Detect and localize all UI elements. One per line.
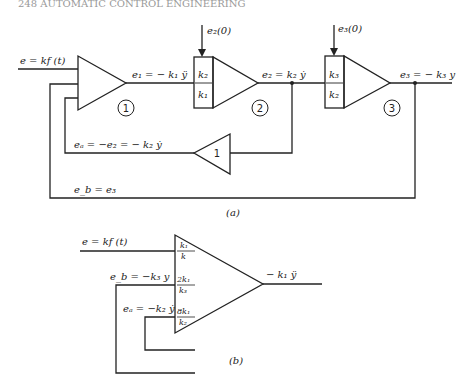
- eb-label-a: e_b = e₃: [74, 184, 116, 196]
- gain-1-num: k₁: [180, 241, 188, 250]
- page-header: 248 AUTOMATIC CONTROL ENGINEERING: [18, 0, 246, 9]
- caption-b: (b): [229, 355, 243, 366]
- inverter-amplifier: [194, 134, 230, 174]
- output-label-b: − k₁ ÿ: [266, 269, 297, 280]
- integrator-2-gain-box: [194, 57, 213, 108]
- gain-2-num: 2k₁: [176, 275, 190, 284]
- ea-label-b: eₐ = −k₂ ẏ: [123, 303, 175, 314]
- integrator-3-gain-box: [325, 56, 344, 108]
- integrator-2: [213, 57, 258, 108]
- amplifier-1: [78, 56, 126, 110]
- input-label-a: e = kf (t): [20, 55, 66, 66]
- input-label-b: e = kf (t): [82, 236, 128, 247]
- integrator-2-gain-num: k₂: [198, 69, 208, 80]
- amp-2-number: 2: [257, 103, 263, 114]
- e2-initial-condition: e₂(0): [207, 25, 231, 36]
- integrator-2-gain-den: k₁: [198, 89, 208, 100]
- caption-a: (a): [226, 207, 240, 218]
- gain-2-den: k₃: [179, 286, 187, 295]
- e3-initial-condition: e₃(0): [338, 23, 362, 34]
- eb-label-b: e_b = −k₃ y: [110, 271, 170, 283]
- integrator-3: [344, 56, 390, 108]
- inverter-gain: 1: [214, 148, 220, 159]
- integrator-3-gain-den: k₂: [329, 89, 339, 100]
- analog-computer-diagram: 248 AUTOMATIC CONTROL ENGINEERING: [0, 0, 473, 391]
- integrator-3-gain-num: k₃: [329, 69, 339, 80]
- amp-1-number: 1: [123, 103, 129, 114]
- summing-amplifier-b: [175, 235, 263, 333]
- amp-3-number: 3: [389, 103, 395, 114]
- ea-label-a: eₐ = −e₂ = − k₂ ẏ: [74, 139, 162, 150]
- e1-label: e₁ = − k₁ ÿ: [132, 69, 187, 80]
- gain-1-den: k: [181, 252, 186, 261]
- gain-3-den: k₂: [179, 318, 187, 327]
- e2-label: e₂ = k₂ ẏ: [262, 69, 306, 80]
- gain-3-num: 8k₁: [177, 307, 190, 316]
- e3-label: e₃ = − k₃ y: [400, 69, 455, 80]
